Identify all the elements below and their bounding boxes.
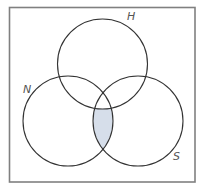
label-s: S [173, 150, 180, 163]
venn-svg: H N S [0, 0, 200, 189]
venn-diagram: H N S [0, 0, 200, 189]
label-h: H [127, 10, 135, 23]
label-n: N [23, 83, 31, 96]
